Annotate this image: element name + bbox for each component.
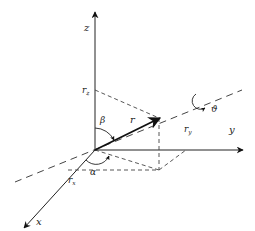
- rotation-axis-line: [15, 90, 242, 182]
- alpha-arc: [86, 156, 109, 164]
- alpha-label: α: [90, 167, 96, 177]
- beta-arc: [95, 128, 114, 140]
- rz-label: rz: [82, 85, 90, 96]
- theta-rotation-icon: [192, 94, 205, 109]
- y-axis-label: y: [228, 124, 235, 135]
- ry-label: ry: [184, 124, 192, 136]
- theta-label: ϑ: [211, 104, 218, 114]
- projection-lines: [68, 90, 186, 170]
- rx-label: rx: [68, 175, 76, 186]
- z-axis-label: z: [83, 22, 90, 33]
- r-vector-label: r: [130, 114, 136, 125]
- x-axis: [24, 150, 95, 228]
- x-axis-label: x: [36, 216, 42, 227]
- beta-label: β: [99, 115, 105, 125]
- coordinate-diagram: z y x r rz ry rx β α ϑ: [0, 0, 255, 231]
